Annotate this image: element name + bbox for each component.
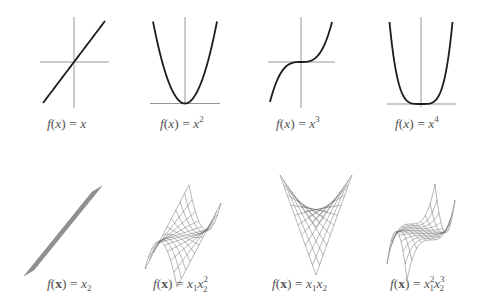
label-x1x2sq: f(x) = x1x22	[153, 274, 208, 294]
mesh-x1x2sq	[145, 185, 221, 287]
mesh-line	[151, 212, 195, 250]
mesh-line	[305, 191, 341, 245]
mesh-line	[189, 185, 221, 231]
mesh-x1sqx2cube	[387, 184, 455, 280]
mesh-line	[387, 232, 407, 280]
mesh-line	[176, 210, 208, 235]
label-x1sqx2cube: f(x) = x21x32	[390, 274, 445, 293]
mesh-line	[287, 195, 323, 217]
mesh-x1x2	[280, 175, 352, 275]
surface-x1x2sq: f(x) = x1x22	[145, 185, 221, 294]
label-linear: f(x) = x	[47, 116, 86, 131]
surface-x1x2: f(x) = x1x2	[272, 175, 352, 293]
mesh-line	[148, 200, 192, 258]
label-quartic: f(x) = x4	[395, 114, 439, 131]
mesh-line	[284, 185, 320, 222]
label-cubic: f(x) = x3	[276, 114, 320, 131]
figure-canvas: f(x) = x f(x) = x2 f(x) = x3 f(x) = x4 f…	[0, 0, 480, 305]
surface-x2: f(x) = x2	[24, 186, 102, 293]
mesh-line	[435, 184, 455, 232]
mesh-x2	[24, 186, 102, 276]
label-quadratic: f(x) = x2	[160, 114, 204, 131]
mesh-line	[177, 203, 221, 287]
mesh-line	[185, 193, 217, 231]
mesh-line	[280, 175, 316, 227]
surface-x1sqx2cube: f(x) = x21x32	[387, 184, 455, 293]
mesh-line	[312, 180, 348, 265]
plot-quartic: f(x) = x4	[387, 17, 456, 131]
mesh-line	[174, 214, 218, 272]
plot-quadratic: f(x) = x2	[150, 17, 220, 131]
mesh-line	[158, 237, 190, 262]
label-x1x2: f(x) = x1x2	[272, 276, 327, 293]
plot-cubic: f(x) = x3	[268, 17, 335, 131]
label-x2: f(x) = x2	[47, 276, 91, 293]
plot-linear: f(x) = x	[40, 17, 109, 131]
mesh-line	[149, 240, 181, 278]
mesh-line	[145, 185, 189, 269]
